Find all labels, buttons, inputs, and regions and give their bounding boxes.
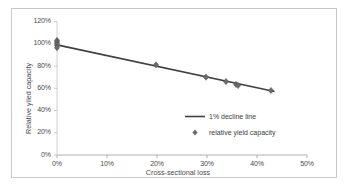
legend-label-yield-capacity: relative yield capacity [209, 129, 276, 136]
x-tick-label: 40% [242, 160, 272, 167]
data-point-marker [203, 74, 208, 80]
decline-line-path [57, 45, 275, 92]
y-axis-title: Relative yiled capacity [24, 63, 33, 134]
x-tick-label: 20% [142, 160, 172, 167]
data-point-marker [223, 78, 228, 84]
data-point-marker [268, 87, 273, 93]
y-tick-label: 100% [25, 39, 51, 46]
x-tick-label: 0% [42, 160, 72, 167]
chart-figure: 0%20%40%60%80%100%120% 0%10%20%30%40%50%… [0, 0, 356, 192]
x-tick-label: 10% [92, 160, 122, 167]
decline-line-series [57, 45, 275, 92]
x-tick-label: 30% [192, 160, 222, 167]
legend-diamond-icon [192, 130, 197, 136]
x-tick-label: 50% [292, 160, 322, 167]
x-axis-title: Cross-sectional loss [0, 168, 356, 177]
legend-label-decline-line: 1% decline line [209, 113, 256, 120]
y-tick-label: 0% [25, 151, 51, 158]
y-tick-label: 120% [25, 17, 51, 24]
